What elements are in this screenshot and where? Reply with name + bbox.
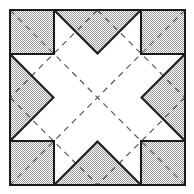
fold-pattern-diagram — [0, 0, 194, 194]
diagram-canvas — [0, 0, 194, 194]
corner-square-bottom-right — [141, 141, 185, 185]
corner-square-top-left — [10, 10, 54, 54]
